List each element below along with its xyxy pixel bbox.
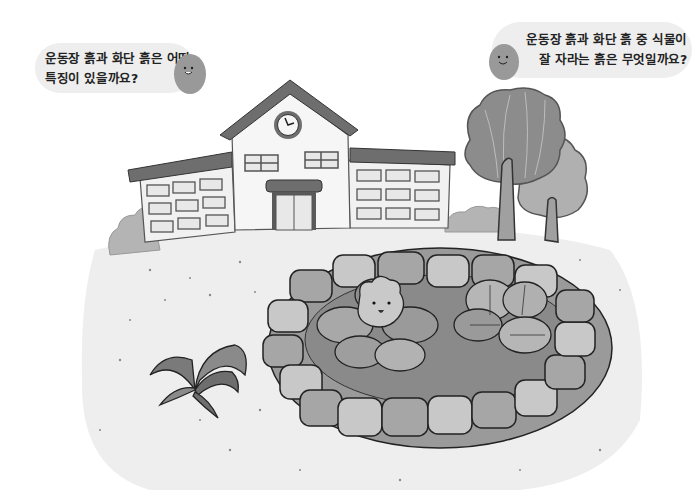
bush-right [445,206,505,232]
bubble-left-text: 운동장 흙과 화단 흙은 어떤 특징이 있을까요? [45,49,190,89]
speaker-character-right-icon [486,42,522,82]
school-building [128,80,455,242]
clock-icon [274,111,302,139]
school-door [266,180,322,230]
bubble-left-line-2: 특징이 있을까요? [45,69,190,89]
speech-bubble-right: 운동장 흙과 화단 흙 중 식물이 잘 자라는 흙은 무엇일까요? [492,22,692,78]
flower-bed [263,248,612,448]
bubble-left-line-1: 운동장 흙과 화단 흙은 어떤 [45,49,190,69]
speaker-character-left-icon [170,52,210,98]
